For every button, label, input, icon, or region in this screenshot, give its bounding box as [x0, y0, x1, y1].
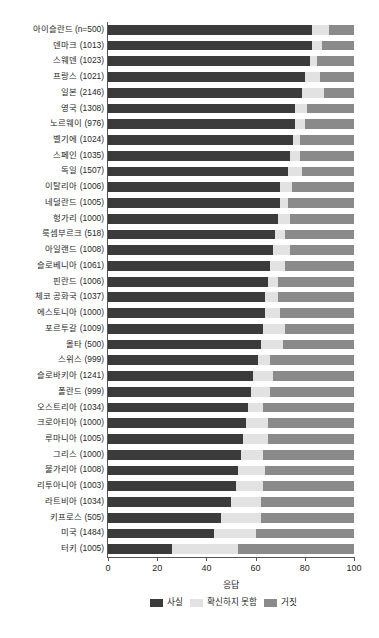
bar-segment-unsure	[241, 450, 263, 460]
y-axis-label: 이탈리아 (1006)	[0, 182, 104, 190]
bar-segment-false	[268, 418, 354, 428]
x-axis-title: 응답	[108, 578, 354, 591]
bar-segment-unsure	[295, 119, 305, 129]
bar-segment-fact	[108, 88, 302, 98]
bar-segment-false	[283, 340, 354, 350]
bar-segment-fact	[108, 135, 293, 145]
bar-row	[108, 387, 354, 397]
y-axis-label: 헝가리 (1000)	[0, 214, 104, 222]
bar-segment-unsure	[302, 88, 324, 98]
bar-segment-false	[302, 167, 354, 177]
bar-row	[108, 182, 354, 192]
bar-row	[108, 292, 354, 302]
bar-segment-false	[263, 403, 354, 413]
y-axis-label: 그리스 (1000)	[0, 450, 104, 458]
bar-segment-fact	[108, 371, 253, 381]
legend-swatch-false	[264, 599, 277, 607]
bar-segment-false	[300, 135, 354, 145]
bar-segment-fact	[108, 214, 278, 224]
bar-row	[108, 340, 354, 350]
bar-row	[108, 450, 354, 460]
y-axis-label: 미국 (1484)	[0, 528, 104, 536]
bar-row	[108, 25, 354, 35]
bar-row	[108, 135, 354, 145]
bar-segment-false	[263, 450, 354, 460]
bar-segment-unsure	[278, 214, 290, 224]
legend-label-false: 거짓	[281, 598, 297, 608]
x-axis-tick-label: 20	[152, 563, 162, 573]
y-axis-label: 독일 (1507)	[0, 166, 104, 174]
bar-segment-fact	[108, 151, 290, 161]
bar-row	[108, 198, 354, 208]
bar-segment-false	[320, 72, 354, 82]
bar-segment-false	[288, 198, 354, 208]
bar-segment-fact	[108, 387, 251, 397]
bar-row	[108, 119, 354, 129]
bar-segment-fact	[108, 198, 280, 208]
plot-area	[108, 22, 354, 557]
bar-segment-unsure	[293, 135, 300, 145]
bar-segment-unsure	[251, 387, 271, 397]
bar-segment-fact	[108, 25, 312, 35]
y-axis-label: 에스토니아 (1000)	[0, 308, 104, 316]
bar-segment-fact	[108, 434, 243, 444]
bar-segment-false	[270, 387, 354, 397]
chart-legend: 사실 확신하지 못함 거짓	[150, 598, 379, 608]
legend-label-fact: 사실	[167, 598, 183, 608]
bar-row	[108, 434, 354, 444]
y-axis-label: 아일랜드 (1008)	[0, 245, 104, 253]
y-axis-labels: 아이슬란드 (n=500)덴마크 (1013)스웨덴 (1023)프랑스 (10…	[0, 22, 104, 557]
bar-segment-false	[263, 481, 354, 491]
bar-segment-fact	[108, 230, 275, 240]
bar-segment-unsure	[238, 466, 265, 476]
bar-segment-unsure	[290, 151, 300, 161]
bar-row	[108, 466, 354, 476]
bar-row	[108, 261, 354, 271]
bar-segment-unsure	[248, 403, 263, 413]
bar-segment-fact	[108, 119, 295, 129]
bar-segment-fact	[108, 403, 248, 413]
bar-segment-false	[270, 355, 354, 365]
bar-row	[108, 151, 354, 161]
bar-segment-false	[305, 119, 354, 129]
y-axis-label: 크로아티아 (1000)	[0, 418, 104, 426]
y-axis-label: 덴마크 (1013)	[0, 41, 104, 49]
bar-row	[108, 245, 354, 255]
bar-row	[108, 88, 354, 98]
bar-segment-false	[317, 56, 354, 66]
bar-segment-fact	[108, 41, 312, 51]
x-axis-tick	[256, 557, 257, 561]
bar-segment-false	[285, 324, 354, 334]
bar-segment-false	[278, 277, 354, 287]
y-axis-label: 터키 (1005)	[0, 544, 104, 552]
bar-segment-false	[280, 308, 354, 318]
x-axis-line	[107, 557, 355, 558]
bar-segment-fact	[108, 104, 295, 114]
legend-swatch-unsure	[190, 599, 203, 607]
y-axis-label: 스위스 (999)	[0, 355, 104, 363]
bar-segment-unsure	[310, 56, 317, 66]
bar-segment-unsure	[172, 544, 238, 554]
bar-row	[108, 544, 354, 554]
bar-row	[108, 41, 354, 51]
x-axis-tick-label: 60	[251, 563, 261, 573]
bar-segment-false	[285, 261, 354, 271]
bar-segment-fact	[108, 292, 265, 302]
y-axis-label: 루마니아 (1005)	[0, 434, 104, 442]
bar-segment-false	[324, 88, 354, 98]
y-axis-label: 스웨덴 (1023)	[0, 56, 104, 64]
bar-segment-false	[300, 151, 354, 161]
y-axis-label: 불가리아 (1008)	[0, 465, 104, 473]
legend-item-fact: 사실	[150, 598, 183, 608]
bar-segment-unsure	[280, 198, 287, 208]
bar-segment-false	[238, 544, 354, 554]
bar-segment-unsure	[275, 230, 285, 240]
bar-segment-unsure	[312, 41, 322, 51]
bar-segment-fact	[108, 450, 241, 460]
bar-segment-fact	[108, 308, 265, 318]
bar-segment-false	[256, 529, 354, 539]
y-axis-label: 키프로스 (505)	[0, 513, 104, 521]
bar-row	[108, 104, 354, 114]
bar-row	[108, 214, 354, 224]
y-axis-label: 네덜란드 (1005)	[0, 198, 104, 206]
